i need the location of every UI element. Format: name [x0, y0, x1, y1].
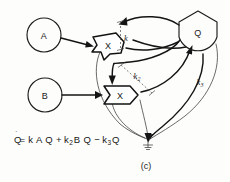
reaction-box-1[interactable]: X — [92, 33, 124, 60]
rate-label-k3: k3 — [197, 77, 204, 88]
panel-label: (c) — [141, 161, 152, 171]
edge-reaction1-to-q — [126, 40, 186, 50]
node-b[interactable]: B — [28, 78, 62, 112]
reaction-box-2-label: X — [117, 91, 123, 101]
edge-q-to-reaction1 — [119, 17, 180, 26]
rate-equation: Q˙= k A Q +k2B Q −k3Q — [14, 129, 120, 145]
edge-b-to-reaction2 — [62, 91, 103, 99]
rate-label-k1: k — [124, 33, 128, 43]
figure-panel-c: A B Q X X — [0, 0, 230, 182]
edge-q-inner-to-sink — [150, 54, 203, 138]
node-q[interactable]: Q — [179, 11, 217, 51]
rate-label-k2: k2 — [134, 71, 141, 82]
node-a-label: A — [41, 31, 47, 41]
node-q-label: Q — [194, 28, 201, 38]
rate-equation-text: Q˙= k A Q +k2B Q −k3Q — [14, 129, 120, 145]
reaction-box-1-label: X — [105, 41, 111, 51]
edge-reaction2-to-sink — [112, 100, 145, 138]
node-b-label: B — [42, 91, 48, 101]
edge-q-to-sink-k3 — [147, 44, 218, 143]
edge-a-to-reaction1 — [61, 38, 94, 48]
edge-reaction2-right-to-sink — [140, 100, 148, 137]
node-a[interactable]: A — [27, 18, 61, 52]
reaction-network-diagram: A B Q X X — [0, 0, 230, 182]
reaction-box-2[interactable]: X — [104, 86, 138, 104]
